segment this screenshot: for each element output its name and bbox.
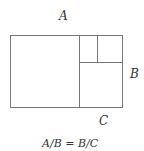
label-c: C xyxy=(99,115,108,127)
divider-vertical-small xyxy=(97,35,98,62)
outer-rectangle xyxy=(10,35,123,108)
ratio-equation: A/B = B/C xyxy=(42,138,98,150)
divider-horizontal xyxy=(79,62,123,63)
label-b: B xyxy=(130,68,139,80)
divider-vertical-main xyxy=(79,35,80,108)
label-a: A xyxy=(59,10,68,22)
